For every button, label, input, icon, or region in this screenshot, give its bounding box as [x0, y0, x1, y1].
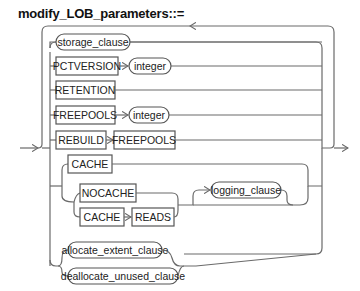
deallocate-unused-clause-node[interactable]: deallocate_unused_clause: [61, 268, 186, 284]
reads-keyword[interactable]: READS: [132, 208, 174, 226]
storage-clause-node[interactable]: storage_clause: [56, 34, 130, 50]
freepools-label: FREEPOOLS: [53, 109, 117, 121]
allocate-extent-clause-node[interactable]: allocate_extent_clause: [62, 242, 169, 258]
freepools-keyword[interactable]: FREEPOOLS: [53, 106, 117, 124]
retention-keyword[interactable]: RETENTION: [55, 81, 116, 99]
cache-reads-cache-keyword[interactable]: CACHE: [80, 208, 124, 226]
logging-clause-label: logging_clause: [211, 184, 281, 196]
nocache-keyword[interactable]: NOCACHE: [80, 184, 136, 202]
logging-clause-node[interactable]: logging_clause: [211, 182, 281, 198]
rebuild-freepools-keyword[interactable]: FREEPOOLS: [112, 131, 176, 149]
pctversion-integer-node[interactable]: integer: [129, 58, 171, 74]
cache-reads-cache-label: CACHE: [84, 211, 121, 223]
pctversion-keyword[interactable]: PCTVERSION: [53, 57, 121, 75]
freepools-integer-node[interactable]: integer: [129, 107, 169, 123]
repeat-loop: [146, 26, 348, 148]
syntax-diagram: storage_clause PCTVERSION integer RETENT…: [0, 0, 360, 291]
pctversion-integer-label: integer: [134, 60, 167, 72]
cache-label: CACHE: [72, 158, 109, 170]
deallocate-unused-clause-label: deallocate_unused_clause: [61, 270, 186, 282]
allocate-extent-clause-label: allocate_extent_clause: [62, 244, 169, 256]
pctversion-label: PCTVERSION: [53, 60, 121, 72]
retention-label: RETENTION: [55, 84, 116, 96]
reads-label: READS: [135, 211, 171, 223]
rebuild-freepools-label: FREEPOOLS: [112, 134, 176, 146]
cache-keyword[interactable]: CACHE: [68, 155, 112, 173]
freepools-integer-label: integer: [133, 109, 166, 121]
rebuild-label: REBUILD: [58, 134, 104, 146]
rebuild-keyword[interactable]: REBUILD: [56, 131, 106, 149]
nocache-label: NOCACHE: [82, 187, 135, 199]
storage-clause-label: storage_clause: [57, 36, 128, 48]
